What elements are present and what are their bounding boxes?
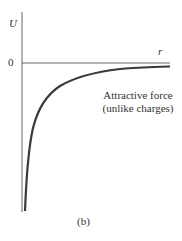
annotation-line-1: Attractive force — [94, 89, 182, 102]
x-axis-label: r — [158, 45, 162, 58]
zero-tick-label: 0 — [8, 56, 14, 69]
y-axis-label: U — [9, 17, 17, 30]
curve-annotation: Attractive force (unlike charges) — [94, 89, 182, 115]
potential-energy-plot — [0, 0, 182, 241]
figure-caption: (b) — [77, 215, 90, 228]
annotation-line-2: (unlike charges) — [94, 102, 182, 115]
